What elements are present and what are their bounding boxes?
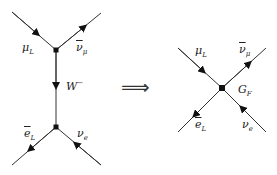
label-base: W xyxy=(66,80,77,93)
label-sub: e xyxy=(249,125,253,133)
label-W-minus: W− xyxy=(66,80,83,92)
label-sub: L xyxy=(202,125,207,133)
label-contact-nu-e: νe xyxy=(242,119,253,133)
label-sub: e xyxy=(84,134,88,142)
vertex-contact xyxy=(219,85,225,91)
contact-antielectron-arrow-icon xyxy=(195,88,222,115)
label-sub: μ xyxy=(246,50,251,58)
label-contact-mu-L: μL xyxy=(195,45,207,59)
label-base: ν xyxy=(77,127,84,140)
label-coupling-GF: GF xyxy=(238,84,252,98)
label-nu-e: νe xyxy=(77,128,88,142)
label-mu-L: μL xyxy=(22,42,34,56)
label-sub: L xyxy=(202,51,207,59)
label-nubar-mu: νμ xyxy=(76,42,87,56)
implies-arrow-icon: ⟹ xyxy=(121,77,150,97)
label-contact-nubar-mu: νμ xyxy=(239,44,250,58)
muon-arrow-icon xyxy=(12,12,37,34)
label-base: G xyxy=(238,83,247,96)
label-ebar-L: eL xyxy=(24,128,35,142)
vertex-top xyxy=(54,48,59,53)
label-base: ν xyxy=(242,118,249,131)
label-base: ν xyxy=(76,41,83,54)
label-sub: μ xyxy=(83,48,88,56)
label-sub: L xyxy=(31,134,36,142)
label-sub: F xyxy=(247,90,252,98)
neutrino-e-arrow-icon xyxy=(76,144,101,165)
label-sub: L xyxy=(29,48,34,56)
label-sup: − xyxy=(77,79,83,87)
label-base: ν xyxy=(239,43,246,56)
vertex-bottom xyxy=(54,125,59,130)
label-contact-ebar-L: eL xyxy=(195,119,206,133)
